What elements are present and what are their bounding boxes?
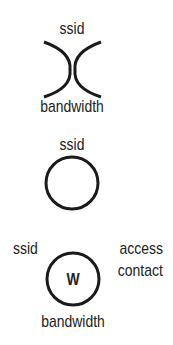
symbol3-top-left-label: ssid <box>13 240 38 257</box>
symbol3-bottom-label: bandwidth <box>41 313 105 330</box>
diagram-canvas <box>0 0 173 345</box>
symbol2-top-label: ssid <box>60 136 85 153</box>
symbol3-right-label: contact <box>118 262 163 279</box>
circle-icon <box>46 157 98 209</box>
opposing-arcs-icon <box>44 42 101 97</box>
symbol1-bottom-label: bandwidth <box>40 98 104 115</box>
symbol3-letter: W <box>66 271 79 288</box>
symbol3-top-right-label: access <box>120 240 163 257</box>
symbol1-top-label: ssid <box>60 20 85 37</box>
